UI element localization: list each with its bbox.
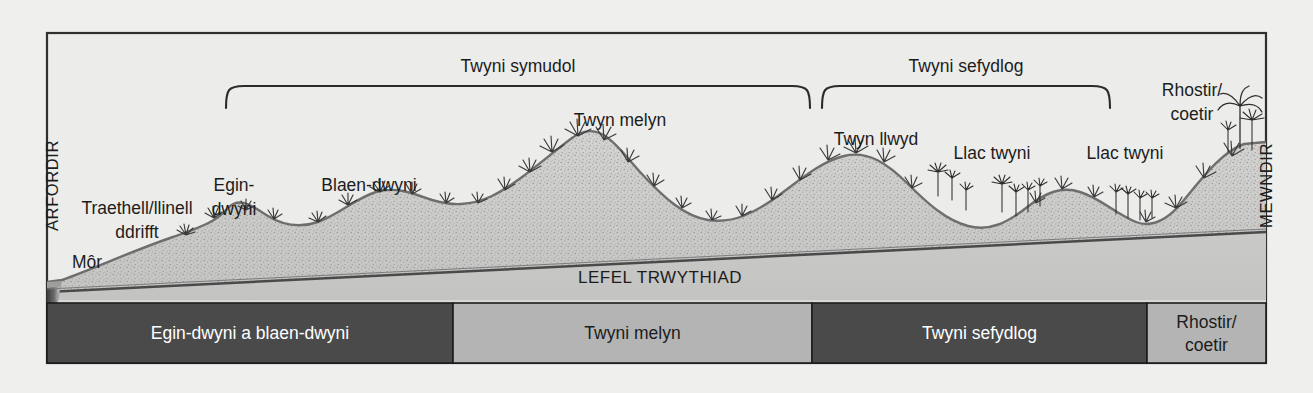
bracket-label-0: Twyni symudol xyxy=(461,56,576,76)
label-yellow-dune: Twyn melyn xyxy=(574,110,666,130)
svg-text:Egin-: Egin- xyxy=(214,175,255,195)
zone-label-1: Twyni melyn xyxy=(584,323,680,343)
zone-label-2: Twyni sefydlog xyxy=(922,323,1037,343)
water-table-label: LEFEL TRWYTHIAD xyxy=(578,268,742,287)
zone-label-3b: coetir xyxy=(1185,335,1228,355)
zone-bar: Egin-dwyni a blaen-dwyni Twyni melyn Twy… xyxy=(47,303,1266,363)
zone-label-3a: Rhostir/ xyxy=(1176,312,1236,332)
svg-text:Rhostir/: Rhostir/ xyxy=(1162,80,1222,100)
zone-label-0: Egin-dwyni a blaen-dwyni xyxy=(151,323,349,343)
label-dune-slack-1: Llac twyni xyxy=(954,143,1031,163)
svg-text:Traethell/llinell: Traethell/llinell xyxy=(81,198,192,218)
svg-text:dwyni: dwyni xyxy=(212,199,257,219)
zone-cell-2: Twyni sefydlog xyxy=(812,303,1147,363)
label-dune-slack-2: Llac twyni xyxy=(1087,143,1164,163)
bracket-label-1: Twyni sefydlog xyxy=(909,56,1024,76)
zone-cell-3: Rhostir/ coetir xyxy=(1147,303,1266,363)
label-fore-dunes: Blaen-dwyni xyxy=(321,175,416,195)
zone-cell-0: Egin-dwyni a blaen-dwyni xyxy=(47,303,453,363)
axis-label-inland: MEWNDIR xyxy=(1257,126,1276,246)
label-sea: Môr xyxy=(72,252,102,272)
axis-label-coast: ARFORDIR xyxy=(43,126,62,246)
label-grey-dune: Twyn llwyd xyxy=(834,129,919,149)
zone-cell-1: Twyni melyn xyxy=(453,303,812,363)
svg-text:coetir: coetir xyxy=(1171,104,1214,124)
dune-succession-diagram: LEFEL TRWYTHIAD Twyni symudol Twyni sefy… xyxy=(0,0,1313,393)
svg-text:ddrifft: ddrifft xyxy=(115,222,159,242)
